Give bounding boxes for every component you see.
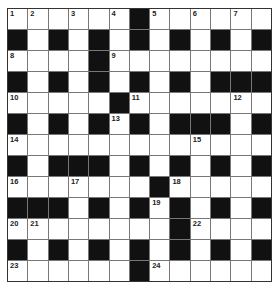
grid-cell[interactable] [69, 72, 88, 92]
grid-cell[interactable]: 2 [28, 9, 47, 29]
grid-cell[interactable] [191, 156, 210, 176]
grid-cell[interactable] [191, 240, 210, 260]
grid-cell[interactable] [191, 198, 210, 218]
grid-cell[interactable] [49, 9, 68, 29]
grid-cell[interactable]: 22 [191, 219, 210, 239]
grid-cell[interactable] [191, 72, 210, 92]
grid-cell[interactable] [231, 114, 250, 134]
grid-cell[interactable] [170, 261, 189, 281]
grid-cell[interactable]: 5 [150, 9, 169, 29]
grid-cell[interactable] [28, 30, 47, 50]
grid-cell[interactable] [110, 240, 129, 260]
grid-cell[interactable] [89, 135, 108, 155]
grid-cell[interactable] [252, 135, 271, 155]
grid-cell[interactable] [231, 177, 250, 197]
grid-cell[interactable] [211, 51, 230, 71]
grid-cell[interactable] [49, 177, 68, 197]
grid-cell[interactable] [69, 219, 88, 239]
grid-cell[interactable] [28, 135, 47, 155]
grid-cell[interactable] [89, 177, 108, 197]
grid-cell[interactable] [191, 261, 210, 281]
grid-cell[interactable] [252, 261, 271, 281]
grid-cell[interactable] [231, 135, 250, 155]
grid-cell[interactable] [191, 93, 210, 113]
grid-cell[interactable] [130, 219, 149, 239]
grid-cell[interactable] [150, 72, 169, 92]
grid-cell[interactable]: 15 [191, 135, 210, 155]
grid-cell[interactable] [110, 30, 129, 50]
grid-cell[interactable] [49, 93, 68, 113]
grid-cell[interactable] [69, 240, 88, 260]
grid-cell[interactable] [211, 93, 230, 113]
grid-cell[interactable] [110, 219, 129, 239]
grid-cell[interactable]: 20 [8, 219, 27, 239]
grid-cell[interactable] [69, 198, 88, 218]
grid-cell[interactable] [150, 30, 169, 50]
grid-cell[interactable] [150, 156, 169, 176]
grid-cell[interactable] [69, 261, 88, 281]
grid-cell[interactable] [28, 51, 47, 71]
grid-cell[interactable] [231, 198, 250, 218]
grid-cell[interactable] [130, 177, 149, 197]
grid-cell[interactable] [28, 240, 47, 260]
grid-cell[interactable] [110, 198, 129, 218]
grid-cell[interactable]: 16 [8, 177, 27, 197]
grid-cell[interactable] [49, 261, 68, 281]
grid-cell[interactable] [28, 72, 47, 92]
grid-cell[interactable] [150, 240, 169, 260]
grid-cell[interactable] [211, 9, 230, 29]
grid-cell[interactable] [110, 177, 129, 197]
grid-cell[interactable]: 19 [150, 198, 169, 218]
grid-cell[interactable] [150, 93, 169, 113]
grid-cell[interactable] [110, 156, 129, 176]
grid-cell[interactable] [49, 219, 68, 239]
grid-cell[interactable] [110, 135, 129, 155]
grid-cell[interactable] [211, 135, 230, 155]
grid-cell[interactable] [28, 114, 47, 134]
grid-cell[interactable] [211, 177, 230, 197]
grid-cell[interactable] [89, 219, 108, 239]
grid-cell[interactable] [252, 51, 271, 71]
grid-cell[interactable]: 23 [8, 261, 27, 281]
grid-cell[interactable] [69, 114, 88, 134]
grid-cell[interactable]: 1 [8, 9, 27, 29]
grid-cell[interactable] [28, 177, 47, 197]
grid-cell[interactable] [28, 93, 47, 113]
grid-cell[interactable] [150, 135, 169, 155]
grid-cell[interactable] [110, 261, 129, 281]
grid-cell[interactable] [191, 30, 210, 50]
grid-cell[interactable] [211, 261, 230, 281]
grid-cell[interactable]: 17 [69, 177, 88, 197]
grid-cell[interactable]: 13 [110, 114, 129, 134]
grid-cell[interactable] [231, 240, 250, 260]
grid-cell[interactable]: 10 [8, 93, 27, 113]
grid-cell[interactable]: 9 [110, 51, 129, 71]
grid-cell[interactable] [231, 261, 250, 281]
grid-cell[interactable] [89, 93, 108, 113]
grid-cell[interactable] [89, 261, 108, 281]
grid-cell[interactable] [89, 9, 108, 29]
grid-cell[interactable] [28, 261, 47, 281]
grid-cell[interactable]: 24 [150, 261, 169, 281]
grid-cell[interactable] [49, 51, 68, 71]
grid-cell[interactable]: 7 [231, 9, 250, 29]
grid-cell[interactable] [191, 177, 210, 197]
grid-cell[interactable] [69, 93, 88, 113]
grid-cell[interactable] [252, 219, 271, 239]
grid-cell[interactable] [69, 30, 88, 50]
grid-cell[interactable]: 18 [170, 177, 189, 197]
grid-cell[interactable]: 11 [130, 93, 149, 113]
grid-cell[interactable] [28, 156, 47, 176]
grid-cell[interactable] [231, 30, 250, 50]
grid-cell[interactable] [252, 93, 271, 113]
grid-cell[interactable]: 21 [28, 219, 47, 239]
grid-cell[interactable] [110, 72, 129, 92]
grid-cell[interactable]: 14 [8, 135, 27, 155]
grid-cell[interactable]: 4 [110, 9, 129, 29]
grid-cell[interactable] [130, 51, 149, 71]
grid-cell[interactable]: 8 [8, 51, 27, 71]
grid-cell[interactable] [231, 51, 250, 71]
grid-cell[interactable] [170, 135, 189, 155]
grid-cell[interactable] [69, 51, 88, 71]
grid-cell[interactable] [69, 135, 88, 155]
